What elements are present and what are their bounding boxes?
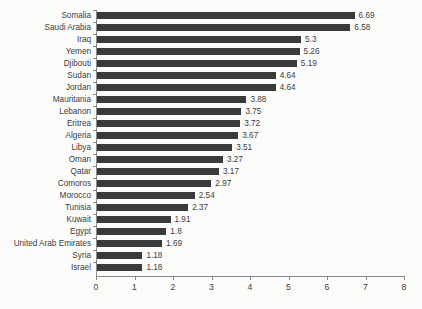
bar [97,144,232,151]
bar-row: Syria1.18 [96,250,404,262]
bar-value-label: 4.64 [280,82,296,94]
bar [97,156,223,163]
bar-value-label: 1.69 [166,238,182,250]
bar-value-label: 3.27 [227,154,243,166]
y-axis-tick [93,70,96,71]
bar-row: Yemen5.26 [96,46,404,58]
bar-value-label: 3.88 [250,94,266,106]
bar-chart: Somalia6.69Saudi Arabia6.58Iraq5.3Yemen5… [0,0,422,309]
x-axis-tick-label: 4 [240,282,260,292]
category-label: Mauritania [53,94,91,106]
x-axis-tick [404,276,405,280]
bar [97,36,301,43]
bar [97,192,195,199]
x-axis-tick-label: 6 [317,282,337,292]
bar-row: Lebanon3.75 [96,106,404,118]
bar-row: Iraq5.3 [96,34,404,46]
y-axis-tick [93,250,96,251]
category-label: Morocco [60,190,91,202]
y-axis-tick [93,262,96,263]
bar [97,12,355,19]
bar-row: Comoros2.97 [96,178,404,190]
bar-value-label: 3.67 [242,130,258,142]
bar-row: Somalia6.69 [96,10,404,22]
category-label: Saudi Arabia [45,22,91,34]
category-label: Oman [69,154,91,166]
bar [97,240,162,247]
bar [97,228,166,235]
category-label: Israel [71,262,91,274]
x-axis-tick-label: 5 [279,282,299,292]
bar-row: Oman3.27 [96,154,404,166]
x-axis-tick-label: 8 [394,282,414,292]
category-label: Iraq [77,34,91,46]
bar-value-label: 1.8 [170,226,181,238]
x-axis-tick-label: 3 [202,282,222,292]
category-label: Libya [71,142,91,154]
bar [97,180,211,187]
y-axis-tick [93,58,96,59]
bar-value-label: 5.26 [304,46,320,58]
bar-value-label: 4.64 [280,70,296,82]
bar-row: Algeria3.67 [96,130,404,142]
y-axis-tick [93,202,96,203]
x-axis-tick-label: 0 [86,282,106,292]
category-label: Jordan [66,82,91,94]
bar [97,84,276,91]
bar-value-label: 6.58 [354,22,370,34]
category-label: United Arab Emirates [14,238,91,250]
bar [97,264,142,271]
bar [97,108,241,115]
y-axis-tick [93,130,96,131]
x-axis-tick-label: 2 [163,282,183,292]
y-axis-tick [93,82,96,83]
bar [97,48,300,55]
x-axis-tick [212,276,213,280]
x-axis-tick [289,276,290,280]
y-axis-tick [93,22,96,23]
category-label: Djibouti [64,58,91,70]
y-axis-tick [93,46,96,47]
category-label: Lebanon [59,106,91,118]
x-axis-tick [135,276,136,280]
category-label: Yemen [66,46,91,58]
category-label: Algeria [66,130,92,142]
bar [97,132,238,139]
bar-row: Tunisia2.37 [96,202,404,214]
bar-value-label: 2.97 [215,178,231,190]
x-axis-tick [366,276,367,280]
bar-row: Israel1.18 [96,262,404,274]
category-label: Egypt [70,226,91,238]
bar-value-label: 3.72 [244,118,260,130]
bar-row: Saudi Arabia6.58 [96,22,404,34]
bar-value-label: 3.51 [236,142,252,154]
bar-row: Sudan4.64 [96,70,404,82]
x-axis-tick [250,276,251,280]
bar-value-label: 1.91 [175,214,191,226]
bar-row: Morocco2.54 [96,190,404,202]
bar-value-label: 1.18 [146,250,162,262]
bar [97,96,246,103]
bar-value-label: 2.37 [192,202,208,214]
y-axis-tick [93,142,96,143]
bar-row: Djibouti5.19 [96,58,404,70]
bar-row: United Arab Emirates1.69 [96,238,404,250]
bar-row: Mauritania3.88 [96,94,404,106]
bar [97,24,350,31]
bar-row: Jordan4.64 [96,82,404,94]
bar-value-label: 6.69 [359,10,375,22]
y-axis-tick [93,226,96,227]
bar-row: Egypt1.8 [96,226,404,238]
x-axis-tick [173,276,174,280]
bar-value-label: 2.54 [199,190,215,202]
bar [97,72,276,79]
bar-row: Qatar3.17 [96,166,404,178]
bar [97,120,240,127]
x-axis-tick-label: 1 [125,282,145,292]
y-axis-tick [93,190,96,191]
x-axis-tick-label: 7 [356,282,376,292]
bar-value-label: 5.19 [301,58,317,70]
bar-row: Eritrea3.72 [96,118,404,130]
y-axis-tick [93,34,96,35]
y-axis-tick [93,166,96,167]
